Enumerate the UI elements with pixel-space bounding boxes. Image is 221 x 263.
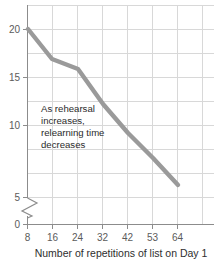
- y-tick-label-10: 10: [9, 120, 21, 131]
- chart-background: [0, 0, 221, 263]
- annotation-line-3: relearning time: [41, 127, 104, 138]
- x-tick-label-53: 53: [147, 232, 159, 243]
- x-axis-title: Number of repetitions of list on Day 1: [35, 247, 208, 259]
- x-tick-label-64: 64: [172, 232, 184, 243]
- x-tick-label-32: 32: [97, 232, 109, 243]
- annotation-line-2: increases,: [41, 115, 85, 126]
- x-tick-label-24: 24: [72, 232, 84, 243]
- y-tick-label-20: 20: [9, 24, 21, 35]
- x-tick-label-8: 8: [25, 232, 31, 243]
- line-chart: 20 15 10 5 0 8 16 24 32 42 53 64: [0, 0, 221, 263]
- annotation-line-1: As rehearsal: [41, 103, 95, 114]
- annotation-line-4: decreases: [41, 139, 85, 150]
- y-tick-label-0: 0: [14, 219, 20, 230]
- y-tick-label-5: 5: [14, 192, 20, 203]
- chart-container: 20 15 10 5 0 8 16 24 32 42 53 64: [0, 0, 221, 263]
- x-tick-label-42: 42: [122, 232, 134, 243]
- x-tick-label-16: 16: [47, 232, 59, 243]
- y-tick-label-15: 15: [9, 72, 21, 83]
